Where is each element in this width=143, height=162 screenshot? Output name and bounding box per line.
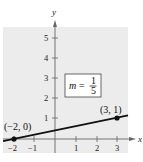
x-tick-neg2: −2 (8, 143, 17, 153)
y-tick-2: 2 (44, 93, 48, 103)
y-tick-3: 3 (44, 73, 48, 83)
point-label-3-1: (3, 1) (100, 104, 122, 116)
slope-denominator: 5 (91, 85, 96, 96)
x-axis-label: x (137, 134, 142, 144)
y-tick-1: 1 (44, 113, 48, 123)
x-tick-2: 2 (95, 143, 99, 153)
x-tick-3: 3 (115, 143, 119, 153)
slope-m: m (69, 80, 76, 91)
point-label-neg2-0: (−2, 0) (4, 121, 31, 133)
x-axis-arrow-icon (129, 137, 136, 141)
x-tick-1: 1 (74, 143, 78, 153)
point-3-1 (114, 115, 119, 120)
point-neg2-0 (11, 136, 16, 141)
y-tick-5: 5 (44, 33, 48, 43)
slope-equals: = (79, 80, 85, 91)
y-axis-label: y (51, 7, 56, 17)
slope-chart: y 1 2 3 4 5 x −2 −1 1 2 3 (−2, 0) (3, 1) (0, 0, 143, 162)
x-tick-neg1: −1 (28, 143, 37, 153)
slope-annotation: m = 1 5 (65, 74, 101, 97)
y-axis-arrow-icon (53, 20, 57, 27)
